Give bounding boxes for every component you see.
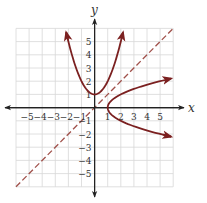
curve-arrow-icon [163, 135, 171, 137]
x-axis-label: x [188, 101, 195, 115]
x-tick-label: 3 [131, 112, 137, 122]
y-tick-label: −4 [78, 156, 92, 166]
y-tick-label: 2 [86, 77, 92, 87]
x-tick-labels: −5−4−3−2−112345 [20, 112, 163, 122]
y-tick-label: −5 [78, 169, 92, 179]
x-tick-label: 4 [144, 112, 150, 122]
x-tick-label: 5 [157, 112, 163, 122]
y-tick-label: −1 [78, 116, 91, 126]
y-tick-label: 5 [86, 37, 92, 47]
function-inverse-graph: −5−4−3−2−112345 −5−4−3−2−112345 x y [0, 0, 207, 203]
y-tick-label: 4 [86, 50, 92, 60]
y-axis-label: y [90, 3, 98, 17]
x-tick-label: −2 [60, 112, 73, 122]
y-tick-label: −3 [78, 143, 92, 153]
x-tick-label: −5 [20, 112, 34, 122]
x-tick-label: −3 [47, 112, 61, 122]
y-tick-label: 3 [86, 64, 92, 74]
curve-arrow-icon [66, 32, 68, 40]
y-tick-label: −2 [78, 130, 91, 140]
x-tick-label: −4 [34, 112, 48, 122]
